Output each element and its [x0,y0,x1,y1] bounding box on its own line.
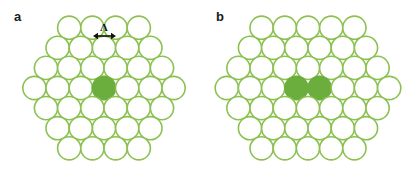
lattice-circle-empty [343,96,366,119]
lattice-circle-empty [262,117,285,140]
lattice-circle-empty [262,76,285,99]
panel-b-lattice [208,0,416,171]
panel-b: b [208,0,416,171]
lattice-circle-empty [139,76,162,99]
lattice-circle-empty [58,16,81,39]
lattice-circle-empty [238,117,261,140]
lattice-circle-empty [331,36,354,59]
lattice-circle-empty [227,56,250,79]
lattice-circle-empty [58,137,81,160]
lattice-circle-empty [250,96,273,119]
lattice-circle-empty [343,137,366,160]
lattice-circle-filled [308,76,331,99]
lattice-circle-empty [296,16,319,39]
lattice-circle-empty [116,76,139,99]
lattice-circle-empty [285,117,308,140]
lattice-circle-empty [285,36,308,59]
lattice-circle-empty [116,36,139,59]
lattice-circle-empty [150,56,173,79]
lattice-circle-empty [296,137,319,160]
lattice-circle-empty [116,117,139,140]
lattice-circle-empty [320,16,343,39]
lattice-circle-empty [343,56,366,79]
lattice-circle-empty [58,56,81,79]
lattice-circle-empty [139,36,162,59]
lattice-circle-empty [273,16,296,39]
lattice-circle-empty [354,117,377,140]
lattice-circle-empty [46,76,69,99]
lattice-circle-empty [238,76,261,99]
lattice-circle-empty [354,36,377,59]
lattice-circle-empty [81,56,104,79]
lattice-circle-empty [296,96,319,119]
lattice-circle-empty [320,96,343,119]
lattice-circle-empty [162,76,185,99]
lattice-circle-empty [273,96,296,119]
lattice-circle-empty [320,56,343,79]
lattice-circle-empty [69,76,92,99]
lattice-circle-empty [81,137,104,160]
lattice-circle-empty [23,76,46,99]
figure-container: a Λ b [0,0,416,171]
lattice-circle-filled [285,76,308,99]
lattice-circle-empty [273,137,296,160]
lattice-circle-empty [104,137,127,160]
lattice-circle-empty [378,76,401,99]
lattice-circle-empty [296,56,319,79]
lattice-circle-empty [250,56,273,79]
lattice-circle-empty [104,56,127,79]
lattice-spacing-symbol: Λ [100,21,108,33]
lattice-circle-empty [139,117,162,140]
lattice-circle-empty [308,117,331,140]
lattice-circle-empty [308,36,331,59]
lattice-circle-empty [127,16,150,39]
lattice-circle-empty [58,96,81,119]
lattice-circle-empty [250,137,273,160]
lattice-circle-empty [69,117,92,140]
lattice-circle-empty [34,96,57,119]
lattice-circle-empty [69,36,92,59]
lattice-circle-empty [262,36,285,59]
lattice-circle-empty [127,56,150,79]
lattice-circle-empty [354,76,377,99]
lattice-circle-empty [331,117,354,140]
lattice-circle-empty [81,96,104,119]
lattice-circle-empty [227,96,250,119]
panel-a-lattice: Λ [0,0,208,171]
lattice-circle-empty [150,96,173,119]
lattice-circle-empty [46,36,69,59]
lattice-circle-empty [127,96,150,119]
lattice-circle-empty [46,117,69,140]
lattice-circle-empty [127,137,150,160]
lattice-circle-empty [366,56,389,79]
lattice-circle-empty [238,36,261,59]
lattice-circle-filled [92,76,115,99]
lattice-circle-empty [215,76,238,99]
lattice-circle-empty [104,96,127,119]
lattice-circle-empty [343,16,366,39]
panel-a: a Λ [0,0,208,171]
lattice-circle-empty [92,117,115,140]
lattice-circle-empty [273,56,296,79]
lattice-circle-empty [92,36,115,59]
lattice-circle-empty [331,76,354,99]
lattice-circle-empty [320,137,343,160]
lattice-circle-empty [34,56,57,79]
lattice-circle-empty [250,16,273,39]
lattice-circle-empty [366,96,389,119]
